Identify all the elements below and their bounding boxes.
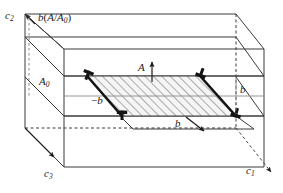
- label-burgers-right: b: [240, 84, 246, 95]
- axis-label-c1: c1: [246, 165, 255, 176]
- diagram-svg: [0, 0, 283, 193]
- label-burgers-shift: b(A/A0): [38, 12, 71, 23]
- label-reference-area-A0: A0: [39, 76, 49, 87]
- axis-label-c2: c2: [5, 10, 14, 21]
- label-slipped-area-A: A: [138, 62, 145, 73]
- c3-axis-arrow: [25, 128, 54, 157]
- figure-canvas: c2 b(A/A0) A0 A −b b b c3 c1: [0, 0, 283, 193]
- slab-top-left-receding-edge: [25, 37, 64, 76]
- label-burgers-negative: −b: [91, 95, 103, 106]
- slab-top-right-receding-edge: [236, 37, 264, 76]
- axis-label-c3: c3: [44, 168, 53, 179]
- label-burgers-bottom: b: [175, 118, 181, 129]
